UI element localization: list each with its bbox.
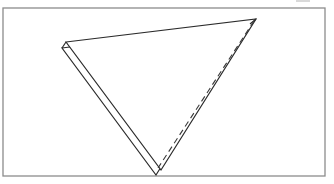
scan-speck (296, 0, 310, 2)
figure-container (0, 0, 334, 184)
line-drawing-canvas (0, 0, 334, 184)
